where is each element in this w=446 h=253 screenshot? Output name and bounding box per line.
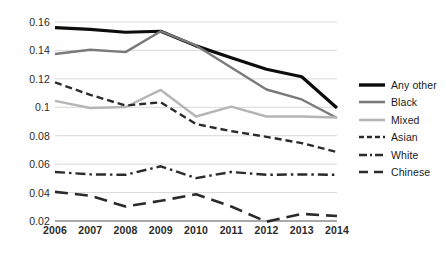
x-axis-tick-label: 2011 — [220, 224, 243, 236]
x-axis-tick-label: 2012 — [255, 224, 279, 236]
line-chart: 0.020.040.060.080.10.120.140.16 20062007… — [0, 0, 446, 253]
x-axis-tick-label: 2013 — [290, 224, 314, 236]
legend-item-label: White — [391, 149, 418, 161]
x-axis-tick-label: 2006 — [43, 224, 67, 236]
plot-area: 0.020.040.060.080.10.120.140.16 20062007… — [0, 0, 360, 253]
x-axis: 200620072008200920102011201220132014 — [0, 0, 360, 253]
legend-item-label: Asian — [391, 131, 418, 143]
legend-item-label: Any other — [391, 79, 437, 91]
legend-item-mixed[interactable]: Mixed — [358, 111, 446, 129]
legend-item-any-other[interactable]: Any other — [358, 76, 446, 94]
chart-legend: Any otherBlackMixedAsianWhiteChinese — [358, 76, 446, 181]
legend-line-swatch — [358, 149, 386, 161]
x-axis-tick-label: 2014 — [325, 224, 349, 236]
x-axis-tick-label: 2008 — [114, 224, 138, 236]
legend-item-label: Black — [391, 96, 417, 108]
legend-line-swatch — [358, 79, 386, 91]
legend-item-label: Mixed — [391, 114, 420, 126]
legend-item-chinese[interactable]: Chinese — [358, 164, 446, 182]
legend-line-swatch — [358, 131, 386, 143]
legend-line-swatch — [358, 96, 386, 108]
legend-item-black[interactable]: Black — [358, 94, 446, 112]
x-axis-tick-label: 2010 — [184, 224, 208, 236]
legend-item-label: Chinese — [391, 166, 430, 178]
legend-item-white[interactable]: White — [358, 146, 446, 164]
x-axis-tick-label: 2007 — [78, 224, 102, 236]
legend-item-asian[interactable]: Asian — [358, 129, 446, 147]
legend-line-swatch — [358, 114, 386, 126]
x-axis-tick-label: 2009 — [149, 224, 173, 236]
legend-line-swatch — [358, 166, 386, 178]
